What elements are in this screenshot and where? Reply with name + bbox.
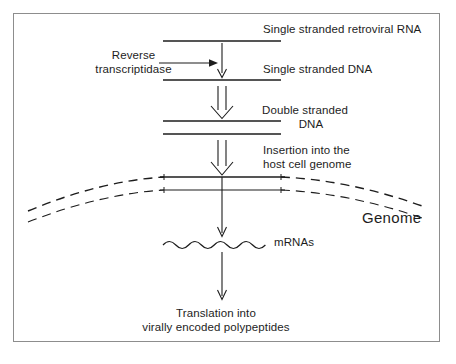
translation-line-2: virally encoded polypeptides — [142, 321, 289, 333]
label-single-stranded-dna: Single stranded DNA — [263, 62, 372, 76]
translation-line-1: Translation into — [176, 307, 256, 319]
insertion-line-1: Insertion into the — [263, 144, 350, 156]
label-reverse-transcriptidase: Reversetranscriptidase — [81, 48, 186, 76]
label-translation-into-virally-encoded-polypeptides: Translation intovirally encoded polypept… — [116, 306, 316, 334]
retrovirus-replication-figure: Single stranded retroviral RNA Reversetr… — [0, 0, 456, 364]
double-stranded-dna-line-2: DNA — [262, 117, 374, 131]
label-insertion-into-host-cell-genome: Insertion into thehost cell genome — [263, 143, 352, 171]
reverse-transcriptidase-line-2: transcriptidase — [95, 63, 171, 75]
figure-border-frame — [13, 13, 440, 342]
reverse-transcriptidase-line-1: Reverse — [112, 49, 156, 61]
label-genome: Genome — [362, 211, 421, 225]
label-mrnas: mRNAs — [274, 235, 314, 249]
insertion-line-2: host cell genome — [263, 158, 352, 170]
label-single-stranded-retroviral-rna: Single stranded retroviral RNA — [263, 22, 421, 36]
label-double-stranded-dna: Double strandedDNA — [262, 103, 374, 131]
double-stranded-dna-line-1: Double stranded — [262, 104, 348, 116]
